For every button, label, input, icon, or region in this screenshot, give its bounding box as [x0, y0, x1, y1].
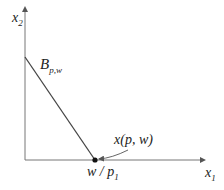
intercept-label-sub: 1 — [114, 172, 119, 182]
point-label: x(p, w) — [114, 132, 153, 148]
x-axis-label: x1 — [205, 165, 216, 183]
intercept-label: w / p1 — [87, 164, 119, 182]
y-axis-label: x2 — [12, 10, 23, 28]
budget-line-label: Bp,w — [40, 56, 62, 75]
x-axis-label-sub: 1 — [211, 173, 216, 183]
budget-line-label-text: B — [40, 56, 49, 72]
intercept-label-text: w / p — [87, 164, 114, 179]
budget-diagram — [0, 0, 224, 190]
pointer-arrow — [99, 150, 128, 159]
optimal-point — [92, 157, 97, 162]
y-axis-label-sub: 2 — [18, 18, 23, 28]
budget-line-label-sub: p,w — [49, 65, 62, 75]
